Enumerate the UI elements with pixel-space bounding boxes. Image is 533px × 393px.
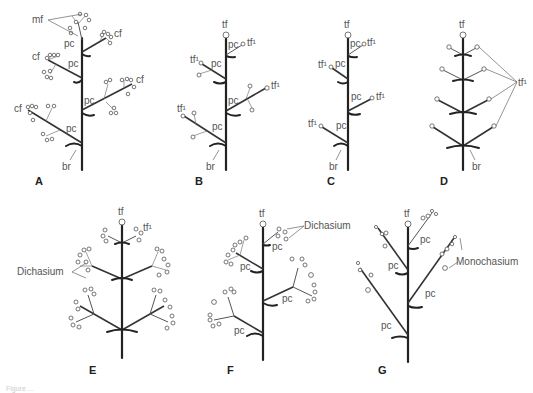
label-pc: pc xyxy=(228,95,239,106)
label-pc: pc xyxy=(68,58,79,69)
panel-d: tf tf¹ br D xyxy=(430,19,528,187)
label-br: br xyxy=(206,161,216,172)
inflorescence-figure: mf pc cf pc cf pc cf xyxy=(0,0,533,393)
label-tf1: tf¹ xyxy=(143,222,153,233)
label-pc: pc xyxy=(351,91,362,102)
panel-f: tf pc Dichasium pc pc pc F xyxy=(208,208,351,376)
label-tf1: tf¹ xyxy=(367,37,377,48)
label-tf1: tf¹ xyxy=(518,77,528,88)
label-pc: pc xyxy=(282,293,293,304)
label-pc: pc xyxy=(335,58,346,69)
label-pc: pc xyxy=(212,121,223,132)
label-monochasium: Monochasium xyxy=(456,256,518,267)
label-dichasium: Dichasium xyxy=(304,220,351,231)
label-pc: pc xyxy=(336,120,347,131)
label-tf: tf xyxy=(459,19,465,30)
panel-label-d: D xyxy=(440,175,448,187)
label-pc: pc xyxy=(211,58,222,69)
panel-label-e: E xyxy=(89,364,96,376)
label-pc: pc xyxy=(64,38,75,49)
label-pc: pc xyxy=(388,260,399,271)
label-tf1: tf¹ xyxy=(376,91,386,102)
label-pc: pc xyxy=(228,39,239,50)
label-tf: tf xyxy=(259,208,265,219)
label-pc: pc xyxy=(84,95,95,106)
label-br: br xyxy=(62,161,72,172)
label-dichasium: Dichasium xyxy=(17,266,64,277)
label-tf1: tf¹ xyxy=(308,118,318,129)
label-cf: cf xyxy=(136,74,144,85)
label-pc: pc xyxy=(66,123,77,134)
panel-label-a: A xyxy=(35,175,43,187)
label-cf: cf xyxy=(114,28,122,39)
panel-label-c: C xyxy=(327,175,335,187)
label-tf: tf xyxy=(118,206,124,217)
label-pc: pc xyxy=(272,241,283,252)
label-br: br xyxy=(472,161,482,172)
panel-b: tf pc tf¹ pc tf¹ pc tf¹ pc tf¹ br B xyxy=(177,19,281,187)
label-pc: pc xyxy=(420,234,431,245)
label-pc: pc xyxy=(381,320,392,331)
panel-g: tf pc pc pc Monochasium pc G xyxy=(356,208,518,376)
label-tf1: tf¹ xyxy=(247,37,257,48)
label-tf: tf xyxy=(344,19,350,30)
panel-label-b: B xyxy=(195,175,203,187)
label-mf: mf xyxy=(32,14,43,25)
label-tf: tf xyxy=(222,19,228,30)
figure-caption: Figure ... xyxy=(6,385,34,392)
panel-e: tf tf¹ Dichasium E xyxy=(17,206,175,376)
label-cf: cf xyxy=(32,51,40,62)
label-cf: cf xyxy=(14,103,22,114)
label-tf1: tf¹ xyxy=(271,80,281,91)
label-tf1: tf¹ xyxy=(177,103,187,114)
panel-label-f: F xyxy=(227,364,234,376)
label-tf1: tf¹ xyxy=(318,59,328,70)
label-pc: pc xyxy=(234,325,245,336)
panel-c: tf pc tf¹ pc tf¹ pc tf¹ pc tf¹ br C xyxy=(308,19,386,187)
label-br: br xyxy=(329,161,339,172)
label-pc: pc xyxy=(240,261,251,272)
label-pc: pc xyxy=(350,38,361,49)
label-tf: tf xyxy=(404,208,410,219)
label-tf1: tf¹ xyxy=(190,54,200,65)
panel-a: mf pc cf pc cf pc cf xyxy=(14,12,144,187)
panel-label-g: G xyxy=(378,364,387,376)
label-pc: pc xyxy=(425,288,436,299)
